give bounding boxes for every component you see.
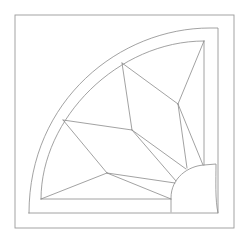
diagram-canvas xyxy=(0,0,245,239)
small-quarter-circle xyxy=(171,164,218,213)
facet-lines xyxy=(41,41,204,199)
pattern-svg xyxy=(0,0,245,239)
outer-arc-frame xyxy=(29,28,218,213)
